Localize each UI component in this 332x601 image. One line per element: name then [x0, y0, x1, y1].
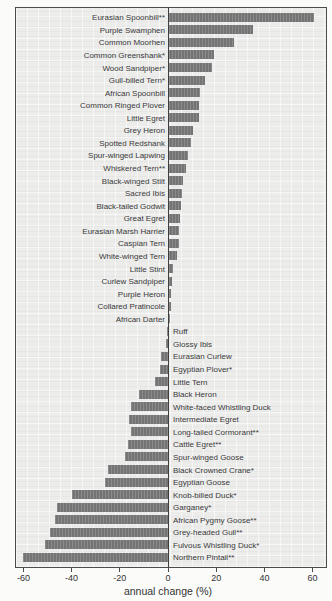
category-label: Collared Pratincole: [97, 302, 165, 311]
bar-little-tern: [155, 377, 168, 386]
bar-great-egret: [169, 214, 180, 223]
category-label: Caspian Tern: [118, 239, 165, 248]
category-label: Grey Heron: [124, 126, 165, 135]
category-label: Little Stint: [130, 264, 165, 273]
chart-row: Spotted Redshank: [16, 137, 326, 150]
category-label: White-faced Whistling Duck: [173, 402, 271, 411]
category-label: Little Tern: [173, 377, 208, 386]
category-label: Glossy Ibis: [173, 339, 212, 348]
category-label: Northern Pintail**: [173, 553, 234, 562]
category-label: Knob-billed Duck*: [173, 490, 237, 499]
x-tick-label: -20: [113, 573, 126, 583]
bar-white-winged-tern: [169, 251, 177, 260]
bar-caspian-tern: [169, 239, 179, 248]
chart-row: Little Tern: [16, 375, 326, 388]
chart-row: Eurasian Marsh Harrier: [16, 225, 326, 238]
bar-intermediate-egret: [129, 415, 168, 424]
chart-row: Spur-winged Lapwing: [16, 149, 326, 162]
category-label: Great Egret: [124, 214, 165, 223]
chart-row: Common Ringed Plover: [16, 99, 326, 112]
chart-row: Ruff: [16, 325, 326, 338]
bar-black-tailed-godwit: [169, 201, 181, 210]
chart-row: Garganey*: [16, 501, 326, 514]
chart-row: Spur-winged Goose: [16, 451, 326, 464]
category-label: Eurasian Spoonbill**: [92, 13, 165, 22]
bar-little-egret: [169, 113, 199, 122]
chart-row: Black Heron: [16, 388, 326, 401]
bar-african-pygmy-goose: [55, 515, 168, 524]
category-label: Fulvous Whistling Duck*: [173, 540, 259, 549]
chart-row: Common Moorhen: [16, 36, 326, 49]
category-label: Egyptian Goose: [173, 478, 230, 487]
bar-spotted-redshank: [169, 138, 191, 147]
category-label: Spur-winged Lapwing: [88, 151, 165, 160]
x-axis-title: annual change (%): [124, 585, 212, 597]
bar-african-darter: [169, 314, 170, 323]
bar-egyptian-plover: [160, 365, 168, 374]
bar-sacred-ibis: [169, 189, 182, 198]
chart-row: African Darter: [16, 313, 326, 326]
bar-knob-billed-duck: [72, 490, 168, 499]
category-label: Curlew Sandpiper: [101, 277, 165, 286]
chart-row: Little Egret: [16, 112, 326, 125]
bar-gull-billed-tern: [169, 76, 205, 85]
bar-curlew-sandpiper: [169, 277, 172, 286]
category-label: White-winged Tern: [99, 251, 165, 260]
x-tick-label: -60: [17, 573, 30, 583]
x-axis: annual change (%) -60-40-200204060: [0, 568, 332, 601]
chart-row: Common Greenshank*: [16, 49, 326, 62]
bar-fulvous-whistling-duck: [45, 540, 168, 549]
chart-row: White-faced Whistling Duck: [16, 400, 326, 413]
bar-african-spoonbill: [169, 88, 200, 97]
chart-row: African Pygmy Goose**: [16, 514, 326, 527]
chart-row: African Spoonbill: [16, 86, 326, 99]
category-label: Grey-headed Gull**: [173, 528, 242, 537]
x-tick-mark: [264, 568, 265, 572]
category-label: African Spoonbill: [105, 88, 165, 97]
chart-row: Little Stint: [16, 262, 326, 275]
category-label: Garganey*: [173, 503, 211, 512]
bar-glossy-ibis: [166, 339, 168, 348]
category-label: Intermediate Egret: [173, 415, 239, 424]
category-label: Eurasian Marsh Harrier: [82, 226, 165, 235]
category-label: Black Crowned Crane*: [173, 465, 254, 474]
bar-egyptian-goose: [105, 478, 168, 487]
category-label: African Pygmy Goose**: [173, 515, 257, 524]
category-label: Egyptian Plover*: [173, 365, 232, 374]
chart-row: Black-tailed Godwit: [16, 199, 326, 212]
category-label: Cattle Egret**: [173, 440, 221, 449]
bar-black-crowned-crane: [108, 465, 168, 474]
bar-garganey: [57, 503, 168, 512]
x-tick-mark: [71, 568, 72, 572]
x-tick-label: 40: [259, 573, 269, 583]
chart-row: Whiskered Tern**: [16, 162, 326, 175]
plot-area: Eurasian Spoonbill**Purple SwamphenCommo…: [15, 7, 327, 568]
chart-row: Curlew Sandpiper: [16, 275, 326, 288]
category-label: Spotted Redshank: [99, 138, 165, 147]
bar-cattle-egret: [128, 440, 168, 449]
chart-row: Wood Sandpiper*: [16, 61, 326, 74]
x-tick-label: -40: [65, 573, 78, 583]
bar-spur-winged-lapwing: [169, 151, 188, 160]
chart-row: Northern Pintail**: [16, 551, 326, 564]
bar-little-stint: [169, 264, 173, 273]
category-label: Common Greenshank*: [84, 50, 165, 59]
chart-row: Black Crowned Crane*: [16, 463, 326, 476]
chart-row: Egyptian Plover*: [16, 363, 326, 376]
category-label: Purple Swamphen: [100, 25, 165, 34]
bar-northern-pintail: [23, 553, 168, 562]
chart-row: Caspian Tern: [16, 237, 326, 250]
chart-row: Knob-billed Duck*: [16, 488, 326, 501]
chart-row: Cattle Egret**: [16, 438, 326, 451]
bar-common-greenshank: [169, 50, 214, 59]
chart-row: Long-tailed Cormorant**: [16, 426, 326, 439]
bar-long-tailed-cormorant: [131, 427, 168, 436]
chart-row: Grey-headed Gull**: [16, 526, 326, 539]
chart-row: Purple Heron: [16, 287, 326, 300]
bar-black-winged-stilt: [169, 176, 183, 185]
x-tick-mark: [168, 568, 169, 572]
category-label: Common Ringed Plover: [80, 101, 165, 110]
category-label: Long-tailed Cormorant**: [173, 427, 259, 436]
category-label: African Darter: [116, 314, 165, 323]
category-label: Little Egret: [127, 113, 165, 122]
